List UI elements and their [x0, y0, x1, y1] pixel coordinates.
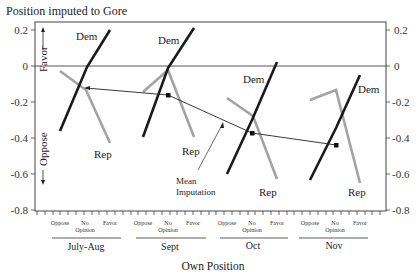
y-tick-label: -0.6 [11, 168, 29, 180]
category-favor: Favor [353, 220, 367, 226]
group-label-julyaug: July-Aug [67, 241, 104, 252]
category-favor: Favor [186, 220, 200, 226]
oppose-label: Oppose [37, 132, 49, 166]
category-no-opinion: No [331, 220, 338, 226]
mean-annotation-label-1: Mean [176, 176, 197, 186]
x-axis-label: Own Position [182, 260, 245, 272]
right-y-axis [386, 30, 390, 210]
rep-label-sept: Rep [182, 145, 200, 157]
group-label-sept: Sept [161, 241, 179, 252]
rep-line-julyaug [60, 71, 110, 143]
rep-label-nov: Rep [348, 186, 366, 198]
mean-marker [166, 93, 171, 98]
y-tick-label-right: -0.8 [392, 204, 410, 216]
chart: Position imputed to Gore 0.2 0 -0.2 -0.4… [0, 0, 418, 275]
dem-line-julyaug [60, 30, 110, 131]
mean-annotation-pointer [198, 125, 222, 170]
category-no-opinion: No [248, 220, 255, 226]
y-tick-label-right: -0.6 [392, 168, 410, 180]
plot-frame [35, 22, 386, 211]
mean-imputation-line [86, 88, 336, 145]
mean-marker [334, 143, 339, 148]
y-tick-label: 0 [23, 60, 29, 72]
category-oppose: Oppose [51, 220, 70, 226]
y-tick-label-right: 0 [394, 60, 400, 72]
dem-label-julyaug: Dem [76, 30, 98, 42]
rep-label-julyaug: Rep [94, 148, 112, 160]
category-oppose: Oppose [134, 220, 153, 226]
annotation-arrowhead-icon [220, 122, 224, 128]
y-tick-label-right: -0.4 [392, 132, 410, 144]
category-no-opinion: No [81, 220, 88, 226]
rep-line-oct [227, 98, 277, 179]
y-tick-label: -0.2 [11, 96, 28, 108]
chart-title: Position imputed to Gore [6, 4, 127, 18]
y-tick-label: 0.2 [14, 24, 28, 36]
x-axis-ticks [37, 211, 380, 215]
left-y-axis [31, 30, 35, 210]
category-no-opinion: Opinion [242, 227, 262, 233]
mean-marker [250, 131, 255, 136]
y-tick-label-right: 0.2 [394, 24, 408, 36]
mean-annotation-label-2: Imputation [176, 187, 216, 197]
category-no-opinion: Opinion [75, 227, 95, 233]
y-tick-label: -0.8 [11, 204, 29, 216]
category-oppose: Oppose [301, 220, 320, 226]
group-label-nov: Nov [325, 240, 342, 251]
dem-label-nov: Dem [358, 83, 380, 95]
oppose-arrow-icon [41, 170, 45, 185]
y-tick-label: -0.4 [11, 132, 29, 144]
dem-label-oct: Dem [243, 73, 265, 85]
rep-line-nov [310, 90, 360, 183]
y-tick-label-right: -0.2 [392, 96, 409, 108]
category-no-opinion: Opinion [158, 227, 178, 233]
favor-label: Favor [37, 46, 49, 72]
category-favor: Favor [103, 220, 117, 226]
rep-label-oct: Rep [259, 186, 277, 198]
dem-label-sept: Dem [158, 34, 180, 46]
group-label-oct: Oct [246, 240, 261, 251]
category-no-opinion: Opinion [325, 227, 345, 233]
category-favor: Favor [270, 220, 284, 226]
category-oppose: Oppose [218, 220, 237, 226]
category-no-opinion: No [164, 220, 171, 226]
